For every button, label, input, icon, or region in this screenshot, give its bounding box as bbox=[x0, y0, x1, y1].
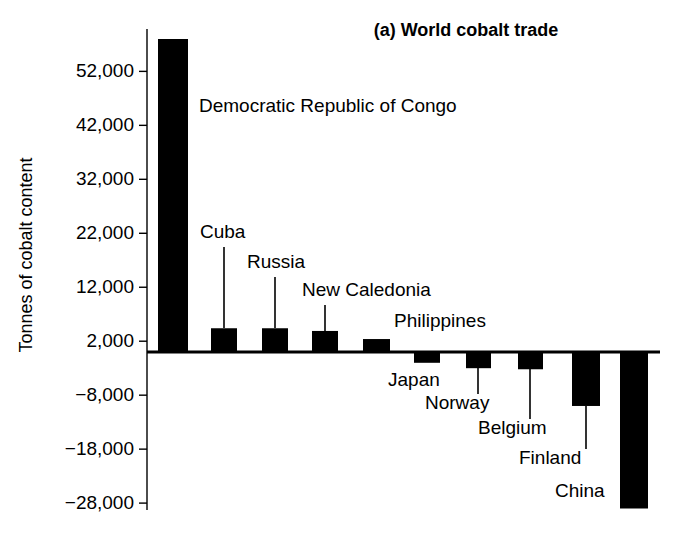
y-axis-tick-label: −28,000 bbox=[65, 492, 134, 513]
y-axis-tick-label: 32,000 bbox=[76, 168, 134, 189]
bar-label-democratic-republic-of-congo: Democratic Republic of Congo bbox=[199, 95, 457, 116]
bar-new-caledonia bbox=[312, 331, 338, 352]
bar-japan bbox=[414, 352, 440, 363]
bar-russia bbox=[262, 328, 288, 352]
bar-label-russia: Russia bbox=[247, 251, 306, 272]
bar-china bbox=[620, 352, 648, 509]
bar-democratic-republic-of-congo bbox=[158, 39, 188, 352]
bar-label-new-caledonia: New Caledonia bbox=[302, 279, 431, 300]
y-axis-tick-label: −18,000 bbox=[65, 438, 134, 459]
y-axis-tick-label: 52,000 bbox=[76, 60, 134, 81]
y-axis-tick-label: 12,000 bbox=[76, 276, 134, 297]
bar-label-cuba: Cuba bbox=[200, 221, 246, 242]
bar-belgium bbox=[518, 352, 543, 369]
bar-label-norway: Norway bbox=[425, 392, 490, 413]
bar-philippines bbox=[363, 339, 390, 352]
chart-title: (a) World cobalt trade bbox=[374, 20, 559, 40]
world-cobalt-trade-bar-chart: 52,00042,00032,00022,00012,0002,000−8,00… bbox=[0, 0, 677, 552]
y-axis-tick-label: 2,000 bbox=[86, 330, 134, 351]
y-axis-tick-label: 42,000 bbox=[76, 114, 134, 135]
bar-label-china: China bbox=[555, 480, 605, 501]
bar-label-philippines: Philippines bbox=[394, 310, 486, 331]
bar-label-japan: Japan bbox=[388, 369, 440, 390]
bar-norway bbox=[466, 352, 491, 368]
bar-finland bbox=[572, 352, 600, 406]
y-axis-tick-label: −8,000 bbox=[75, 384, 134, 405]
bar-label-finland: Finland bbox=[519, 447, 581, 468]
y-axis-title: Tonnes of cobalt content bbox=[16, 157, 36, 352]
bar-label-belgium: Belgium bbox=[478, 417, 547, 438]
chart-figure: 52,00042,00032,00022,00012,0002,000−8,00… bbox=[0, 0, 677, 552]
y-axis-tick-label: 22,000 bbox=[76, 222, 134, 243]
bar-cuba bbox=[211, 328, 237, 352]
